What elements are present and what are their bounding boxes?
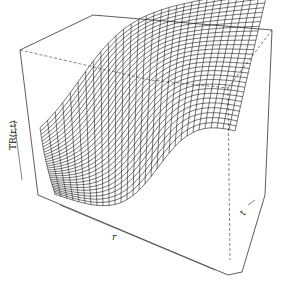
z-axis-label: TR(r,t)	[8, 120, 18, 150]
wireframe-surface-plot	[0, 0, 287, 287]
x-axis-label: r	[112, 232, 116, 242]
